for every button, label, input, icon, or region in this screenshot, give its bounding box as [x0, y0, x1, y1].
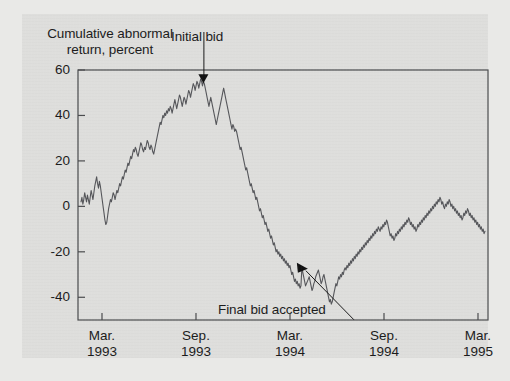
chart-plot-area: [22, 14, 488, 358]
annotation-markers: [198, 32, 353, 320]
data-series-line: [81, 79, 485, 304]
axes-group: [78, 70, 488, 320]
figure-panel: Cumulative abnormal return, percent Init…: [22, 14, 488, 358]
